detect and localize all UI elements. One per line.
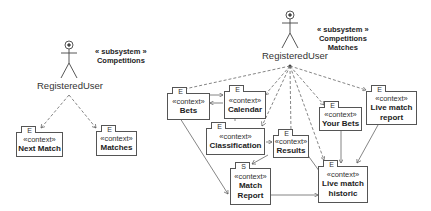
context-matches[interactable]: E «context» Matches	[96, 131, 137, 156]
subsystem-name: Competitions	[95, 56, 147, 65]
context-classification[interactable]: E «context» Classification	[206, 128, 265, 155]
actor-icon-right	[282, 11, 298, 48]
stereotype-label: «context»	[320, 110, 361, 119]
package-tab: S	[235, 162, 250, 169]
subsystem-name-line2: Matches	[317, 43, 369, 52]
context-live-match-report[interactable]: E «context» Live match report	[366, 91, 417, 125]
subsystem-label-right: « subsystem » Competitions Matches	[317, 25, 369, 52]
package-tab: E	[229, 85, 244, 92]
context-name: Match	[231, 181, 270, 191]
context-name: Bets	[168, 106, 209, 116]
stereotype-label: «context»	[17, 135, 62, 144]
stereotype-label: «context»	[97, 134, 136, 143]
subsystem-stereotype: « subsystem »	[95, 47, 147, 56]
context-name-line2: Report	[231, 191, 270, 201]
stereotype-label: «context»	[367, 94, 416, 103]
context-match-report[interactable]: S «context» Match Report	[230, 168, 271, 205]
stereotype-label: «context»	[168, 97, 209, 106]
subsystem-label-left: « subsystem » Competitions	[95, 47, 147, 65]
context-name: Live match	[367, 103, 416, 113]
stereotype-label: «context»	[319, 170, 367, 179]
context-name: Classification	[207, 141, 264, 151]
package-tab: E	[324, 101, 339, 108]
context-your-bets[interactable]: E «context» Your Bets	[319, 107, 362, 131]
context-name-line2: historic	[319, 189, 367, 199]
package-tab: E	[323, 160, 338, 167]
context-bets[interactable]: E «context» Bets	[167, 93, 210, 120]
package-tab: E	[211, 122, 226, 129]
package-tab: E	[101, 125, 116, 132]
subsystem-name: Competitions	[317, 34, 369, 43]
context-name: Live match	[319, 179, 367, 189]
context-name-line2: report	[367, 113, 416, 123]
context-results[interactable]: E «context» Results	[273, 135, 309, 158]
actor-icon-left	[61, 41, 77, 78]
stereotype-label: «context»	[225, 96, 265, 105]
package-tab: E	[278, 129, 293, 136]
context-live-match-historic[interactable]: E «context» Live match historic	[318, 166, 368, 203]
package-tab: E	[172, 87, 187, 94]
context-name: Results	[274, 146, 308, 156]
context-next-match[interactable]: E «context» Next Match	[16, 132, 63, 157]
context-name: Matches	[97, 143, 136, 153]
context-calendar[interactable]: E «context» Calendar	[224, 91, 266, 119]
context-name: Next Match	[17, 144, 62, 154]
package-tab: E	[21, 126, 36, 133]
context-name: Your Bets	[320, 119, 361, 129]
stereotype-label: «context»	[207, 132, 264, 141]
package-tab: E	[371, 85, 386, 92]
subsystem-stereotype: « subsystem »	[317, 25, 369, 34]
actor-label-left: RegisteredUser	[37, 80, 103, 91]
context-name: Calendar	[225, 105, 265, 115]
stereotype-label: «context»	[231, 172, 270, 181]
stereotype-label: «context»	[274, 137, 308, 146]
